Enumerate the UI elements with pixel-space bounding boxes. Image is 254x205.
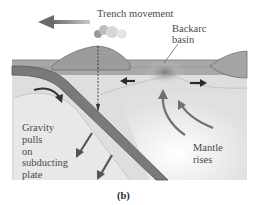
label-basin: basin (172, 34, 194, 46)
label-gravity-4: subducting (22, 157, 68, 169)
backarc-spreading-center (145, 44, 185, 84)
trench-movement-arrow-icon (38, 15, 90, 29)
volcano-plume (94, 25, 127, 39)
label-gravity-2: pulls (22, 134, 42, 146)
label-trench-movement: Trench movement (97, 8, 173, 20)
figure-caption: (b) (117, 190, 130, 201)
label-gravity-1: Gravity (22, 122, 54, 134)
subduction-diagram: Trench movement Backarc basin Gravity pu… (0, 0, 254, 205)
label-mantle: Mantle (193, 142, 223, 154)
label-gravity-5: plate (22, 169, 42, 181)
label-rises: rises (193, 154, 212, 166)
